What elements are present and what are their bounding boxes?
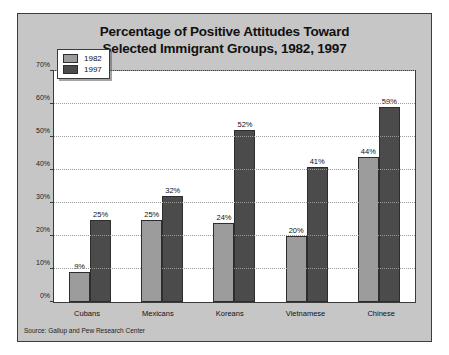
- legend-label-1982: 1982: [84, 54, 102, 63]
- category-label-cubans: Cubans: [74, 309, 100, 318]
- category-label-koreans: Koreans: [216, 309, 244, 318]
- category-axis: CubansMexicansKoreansVietnameseChinese: [53, 305, 416, 321]
- bar-cubans-1982: 9%: [69, 272, 90, 302]
- legend-item-1982: 1982: [63, 54, 102, 63]
- y-axis-tick-label: 30%: [36, 193, 50, 200]
- chart-figure: Percentage of Positive Attitudes Toward …: [17, 13, 432, 342]
- gridline: [54, 202, 415, 203]
- bar-value-label: 41%: [310, 157, 325, 166]
- bar-value-label: 24%: [216, 213, 231, 222]
- y-tick-mark: [50, 235, 54, 236]
- legend-label-1997: 1997: [84, 65, 102, 74]
- bar-value-label: 44%: [361, 147, 376, 156]
- y-tick-mark: [50, 70, 54, 71]
- y-axis-tick-label: 60%: [36, 94, 50, 101]
- y-tick-mark: [50, 169, 54, 170]
- y-axis-tick-label: 40%: [36, 160, 50, 167]
- plot-area: 9%25%25%32%24%52%20%41%44%59% 0%10%20%30…: [53, 70, 416, 303]
- category-label-mexicans: Mexicans: [142, 309, 174, 318]
- source-note: Source: Gallup and Pew Research Center: [24, 327, 145, 334]
- bar-chinese-1982: 44%: [358, 157, 379, 302]
- y-tick-mark: [50, 202, 54, 203]
- y-axis-tick-label: 0%: [40, 292, 50, 299]
- bar-value-label: 25%: [93, 210, 108, 219]
- bar-mexicans-1982: 25%: [141, 220, 162, 303]
- legend-item-1997: 1997: [63, 65, 102, 74]
- y-axis-tick-label: 10%: [36, 259, 50, 266]
- bar-value-label: 52%: [237, 120, 252, 129]
- bar-value-label: 25%: [144, 210, 159, 219]
- bar-vietnamese-1982: 20%: [286, 236, 307, 302]
- gridline: [54, 103, 415, 104]
- bar-koreans-1997: 52%: [234, 130, 255, 302]
- y-tick-mark: [50, 136, 54, 137]
- category-label-vietnamese: Vietnamese: [286, 309, 325, 318]
- legend-swatch-1982: [63, 54, 78, 63]
- y-tick-mark: [50, 301, 54, 302]
- y-axis-tick-label: 70%: [36, 61, 50, 68]
- gridline: [54, 136, 415, 137]
- gridline: [54, 235, 415, 236]
- chart-title-line-1: Percentage of Positive Attitudes Toward: [18, 23, 431, 40]
- bar-value-label: 20%: [289, 226, 304, 235]
- y-axis-tick-label: 20%: [36, 226, 50, 233]
- gridline: [54, 169, 415, 170]
- gridline: [54, 268, 415, 269]
- y-axis-tick-label: 50%: [36, 127, 50, 134]
- chart-legend: 1982 1997: [57, 49, 110, 79]
- bar-value-label: 59%: [382, 97, 397, 106]
- category-label-chinese: Chinese: [367, 309, 395, 318]
- bar-value-label: 9%: [74, 262, 85, 271]
- bar-cubans-1997: 25%: [90, 220, 111, 303]
- bar-mexicans-1997: 32%: [162, 196, 183, 302]
- legend-swatch-1997: [63, 65, 78, 74]
- bar-value-label: 32%: [165, 186, 180, 195]
- y-tick-mark: [50, 268, 54, 269]
- y-tick-mark: [50, 103, 54, 104]
